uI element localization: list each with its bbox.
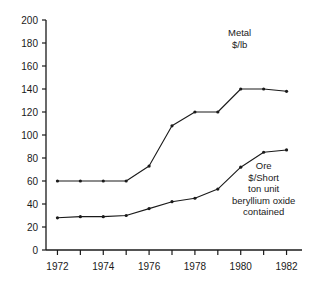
series-point [239, 87, 242, 90]
series-point [56, 179, 59, 182]
y-axis-tick-label: 60 [27, 176, 39, 187]
x-axis-tick-label: 1978 [184, 261, 207, 272]
series-point [125, 179, 128, 182]
y-axis-tick-label: 140 [21, 84, 38, 95]
series-point [193, 110, 196, 113]
annotation-ore-series: Ore $/Short ton unit beryllium oxide con… [232, 160, 295, 218]
series-point [79, 215, 82, 218]
y-axis-tick-label: 180 [21, 38, 38, 49]
annotation-ore-line-5: contained [232, 206, 295, 218]
y-axis-tick-label: 0 [32, 245, 38, 256]
tick-label-layer: 0204060801001201401601802001972197419761… [21, 15, 298, 273]
series-point [147, 164, 150, 167]
series-point [79, 179, 82, 182]
annotation-ore-line-2: $/Short [232, 172, 295, 184]
x-axis-tick-label: 1982 [275, 261, 298, 272]
x-axis-tick-label: 1980 [230, 261, 253, 272]
y-axis-tick-label: 80 [27, 153, 39, 164]
series-point [285, 90, 288, 93]
series-point [285, 148, 288, 151]
x-axis-tick-label: 1976 [138, 261, 161, 272]
y-axis-tick-label: 160 [21, 61, 38, 72]
chart-container: 0204060801001201401601802001972197419761… [0, 0, 320, 288]
x-axis-tick-label: 1974 [92, 261, 115, 272]
tick-layer [42, 20, 287, 255]
series-point [102, 215, 105, 218]
series-point [125, 214, 128, 217]
y-axis-tick-label: 40 [27, 199, 39, 210]
x-axis-tick-label: 1972 [46, 261, 69, 272]
series-point [262, 151, 265, 154]
annotation-ore-line-1: Ore [232, 160, 295, 172]
annotation-metal-series: Metal $/lb [228, 27, 251, 50]
series-point [216, 110, 219, 113]
series-point [170, 200, 173, 203]
series-point [147, 207, 150, 210]
annotation-metal-line-2: $/lb [228, 39, 251, 51]
y-axis-tick-label: 100 [21, 130, 38, 141]
series-point [193, 197, 196, 200]
annotation-ore-line-4: beryllium oxide [232, 195, 295, 207]
annotation-ore-line-3: ton unit [232, 183, 295, 195]
y-axis-tick-label: 20 [27, 222, 39, 233]
series-point [56, 216, 59, 219]
line-chart-plot: 0204060801001201401601802001972197419761… [0, 0, 320, 288]
annotation-metal-line-1: Metal [228, 27, 251, 39]
y-axis-tick-label: 200 [21, 15, 38, 26]
series-point [170, 124, 173, 127]
y-axis-tick-label: 120 [21, 107, 38, 118]
series-point [102, 179, 105, 182]
series-point [262, 87, 265, 90]
series-point [216, 187, 219, 190]
